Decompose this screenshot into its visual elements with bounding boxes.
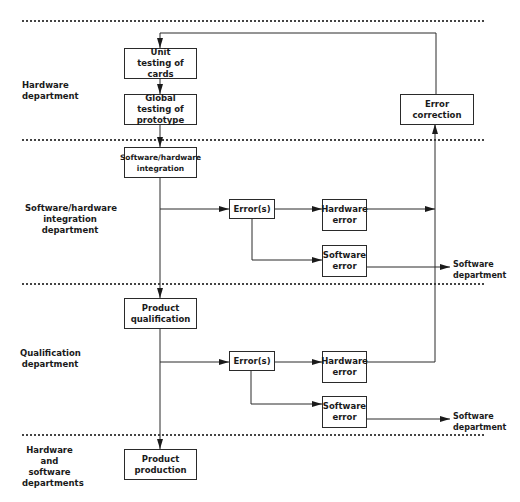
qualification-hw-error-box[interactable]: Hardware error bbox=[322, 351, 367, 383]
flow-diagram: Hardware department Software/hardware in… bbox=[0, 0, 520, 502]
product-production-box[interactable]: Product production bbox=[124, 449, 197, 480]
lane-label-hw-sw: Hardware and software departments bbox=[22, 445, 77, 489]
lane-label-hardware: Hardware department bbox=[22, 80, 112, 102]
qualification-software-department-label: Software department bbox=[453, 411, 503, 433]
sw-hw-integration-box[interactable]: Software/hardware integration bbox=[124, 147, 197, 178]
qualification-sw-error-box[interactable]: Software error bbox=[322, 396, 367, 428]
global-testing-box[interactable]: Global testing of prototype bbox=[124, 94, 197, 125]
product-qualification-box[interactable]: Product qualification bbox=[124, 298, 197, 329]
integration-software-department-label: Software department bbox=[453, 259, 503, 281]
integration-hw-error-box[interactable]: Hardware error bbox=[322, 199, 367, 231]
lane-label-qualification: Qualification department bbox=[20, 348, 80, 370]
qualification-errors-box[interactable]: Error(s) bbox=[229, 351, 275, 371]
unit-testing-box[interactable]: Unit testing of cards bbox=[124, 48, 197, 79]
error-correction-box[interactable]: Error correction bbox=[400, 94, 474, 125]
integration-errors-box[interactable]: Error(s) bbox=[229, 199, 275, 219]
lane-label-integration: Software/hardware integration department bbox=[25, 203, 115, 236]
connector-lines bbox=[0, 0, 520, 502]
integration-sw-error-box[interactable]: Software error bbox=[322, 245, 367, 277]
